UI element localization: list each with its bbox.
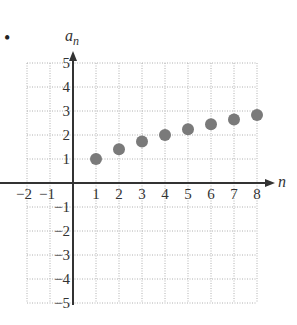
x-tick-label: 2	[115, 186, 123, 202]
data-point	[205, 118, 217, 130]
x-tick-label: 4	[161, 186, 169, 202]
y-tick-label: 5	[63, 55, 71, 71]
x-tick-label: 6	[207, 186, 215, 202]
x-axis-arrow-icon	[265, 179, 275, 187]
data-point	[136, 135, 148, 147]
y-tick-label: 2	[63, 127, 71, 143]
y-tick-label: 3	[63, 103, 71, 119]
y-tick-label: −4	[54, 271, 70, 287]
data-point	[90, 153, 102, 165]
y-tick-label: −3	[54, 247, 70, 263]
y-tick-label: 1	[63, 151, 71, 167]
y-tick-label: −5	[54, 295, 70, 311]
y-axis-arrow-icon	[69, 51, 77, 61]
data-point	[182, 123, 194, 135]
sequence-scatter-plot: −2−112345678−5−4−3−2−112345nan	[0, 0, 297, 325]
y-tick-label: −2	[54, 223, 70, 239]
x-axis-label: n	[278, 173, 286, 190]
data-point	[251, 109, 263, 121]
x-tick-label: 1	[92, 186, 100, 202]
data-point	[228, 113, 240, 125]
y-tick-label: −1	[54, 199, 70, 215]
data-point	[159, 129, 171, 141]
x-tick-label: 5	[184, 186, 192, 202]
y-tick-label: 4	[63, 79, 71, 95]
x-tick-label: 3	[138, 186, 146, 202]
x-tick-label: 8	[253, 186, 261, 202]
y-axis-label: an	[65, 27, 79, 48]
x-tick-label: 7	[230, 186, 238, 202]
data-point	[113, 143, 125, 155]
x-tick-label: −2	[16, 186, 32, 202]
x-tick-label: −1	[39, 186, 55, 202]
